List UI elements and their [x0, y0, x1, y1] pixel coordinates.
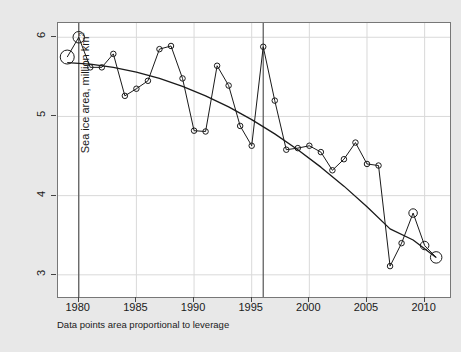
x-tick-mark	[193, 297, 194, 302]
plot-panel	[57, 22, 451, 298]
x-tick-mark	[251, 297, 252, 302]
x-tick-label: 2010	[402, 301, 446, 313]
x-tick-mark	[424, 297, 425, 302]
x-tick-label: 1980	[56, 301, 100, 313]
y-axis-label-superscript: 2	[77, 32, 86, 36]
y-tick-mark	[51, 195, 56, 196]
data-point	[430, 252, 442, 263]
x-tick-mark	[366, 297, 367, 302]
y-tick-mark	[51, 115, 56, 116]
y-tick-label: 5	[35, 104, 47, 124]
y-tick-label: 6	[35, 25, 47, 45]
y-tick-label: 4	[35, 184, 47, 204]
x-tick-mark	[308, 297, 309, 302]
x-tick-label: 2000	[286, 301, 330, 313]
chart-caption: Data points area proportional to leverag…	[57, 319, 229, 330]
plot-svg	[58, 23, 450, 297]
figure-container: Sea ice area, million km2 3456 198019851…	[0, 0, 461, 352]
x-tick-mark	[78, 297, 79, 302]
y-tick-mark	[51, 36, 56, 37]
y-tick-mark	[51, 274, 56, 275]
x-tick-label: 2005	[344, 301, 388, 313]
y-tick-label: 3	[35, 263, 47, 283]
x-tick-label: 1995	[229, 301, 273, 313]
y-axis-label-text: Sea ice area, million km	[79, 37, 91, 154]
y-axis-label: Sea ice area, million km2	[77, 3, 91, 183]
x-tick-label: 1990	[171, 301, 215, 313]
x-tick-mark	[135, 297, 136, 302]
x-tick-label: 1985	[113, 301, 157, 313]
